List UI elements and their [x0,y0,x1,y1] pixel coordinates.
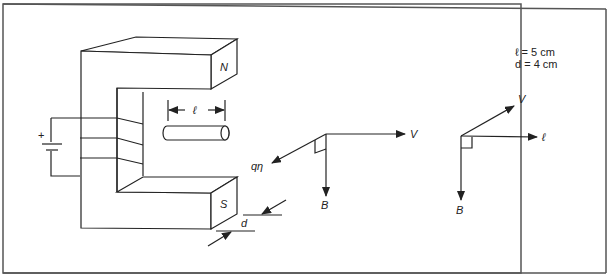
given-depth: d = 4 cm [515,58,558,70]
diagram-canvas: + N S ℓ d V B qη V ℓ B ℓ = 5 cm [0,0,609,277]
north-label: N [220,61,228,73]
left-b-label: B [321,199,328,211]
south-label: S [220,198,228,210]
left-v-label: V [410,128,419,140]
force-vector-arrow [272,134,326,163]
battery-plus-label: + [38,129,44,141]
left-force-label: qη [251,160,263,172]
right-l-label: ℓ [541,131,546,143]
l-vector-arrow [461,136,537,137]
right-v-label: V [518,93,527,105]
conducting-rod [163,126,229,140]
vector-diagram-right [461,106,537,200]
vector-diagram-left [272,134,405,196]
battery-icon [42,144,62,150]
rod-length-label: ℓ [192,104,197,116]
gap-depth-label: d [241,217,248,229]
right-b-label: B [456,204,463,216]
given-length: ℓ = 5 cm [515,46,555,58]
v-vector-arrow [461,106,514,136]
